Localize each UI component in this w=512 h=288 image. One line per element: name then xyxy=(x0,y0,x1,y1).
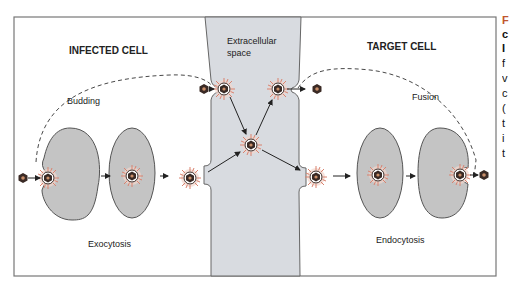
fusion-label: Fusion xyxy=(412,92,439,102)
cropped-caption-char: c xyxy=(502,87,512,99)
budding-label: Budding xyxy=(67,96,100,106)
extracellular-label-line2: space xyxy=(227,48,251,58)
cropped-caption-char: i xyxy=(502,132,512,144)
cropped-caption-char: v xyxy=(502,72,512,84)
cropped-caption-char: t xyxy=(502,117,512,129)
cropped-caption-char: F xyxy=(502,14,512,26)
target-cell-label: TARGET CELL xyxy=(367,41,436,52)
endocytosis-label: Endocytosis xyxy=(376,235,425,245)
infected-cell-label: INFECTED CELL xyxy=(69,45,148,56)
cropped-caption-char: I xyxy=(502,42,512,54)
cropped-caption-char: f xyxy=(502,57,512,69)
extracellular-label-line1: Extracellular xyxy=(227,36,277,46)
cropped-caption-char: ( xyxy=(502,102,512,114)
cropped-caption-char: c xyxy=(502,28,512,40)
cropped-caption-char: t xyxy=(502,147,512,159)
virus-transmission-diagram: INFECTED CELL Extracellular space TARGET… xyxy=(0,0,512,288)
exocytosis-label: Exocytosis xyxy=(88,239,131,249)
